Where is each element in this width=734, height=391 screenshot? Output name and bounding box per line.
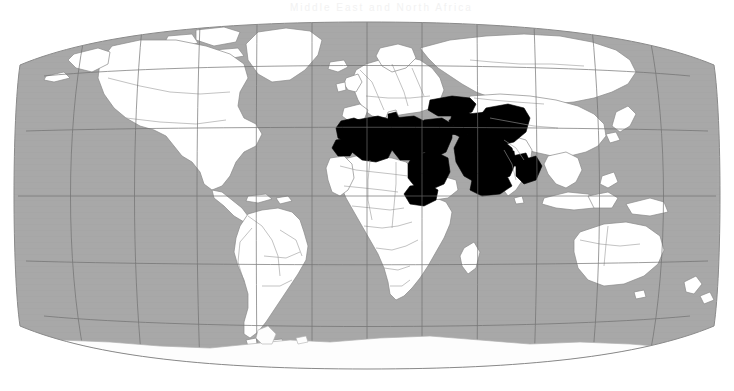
map-body: [0, 0, 734, 391]
world-map-svg: [0, 0, 734, 391]
land-ireland: [336, 82, 346, 92]
world-map-figure: Middle East and North Africa: [0, 0, 734, 391]
land-tasmania: [634, 290, 646, 299]
